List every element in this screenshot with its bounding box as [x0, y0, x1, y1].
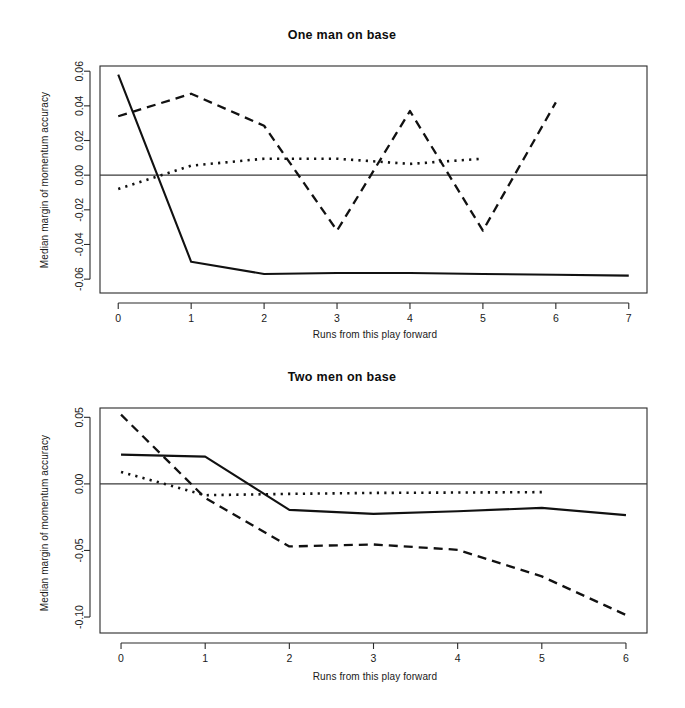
- y-tick-label-0-3: 0.00: [73, 165, 85, 186]
- y-tick-label-0-1: 0.04: [73, 95, 85, 116]
- y-tick-label-0-0: 0.06: [73, 61, 85, 82]
- x-tick-label-1-0: 0: [118, 652, 124, 664]
- y-tick-label-1-1: 0.00: [73, 474, 85, 495]
- x-axis-title-bottom: Runs from this play forward: [313, 671, 437, 682]
- y-tick-label-1-2: -0.05: [73, 538, 85, 562]
- y-tick-label-0-5: -0.04: [73, 232, 85, 256]
- series-2-dotted: [118, 159, 483, 189]
- chart-svg-top: One man on base Median margin of momentu…: [0, 0, 685, 360]
- plot-area-bottom: 0.050.00-0.05-0.100123456: [73, 407, 647, 664]
- chart-title-bottom: Two men on base: [288, 370, 396, 384]
- y-tick-label-1-0: 0.05: [73, 407, 85, 428]
- x-tick-label-0-7: 7: [626, 312, 632, 324]
- y-axis-title-bottom: Median margin of momentum accuracy: [39, 435, 50, 611]
- x-tick-label-1-4: 4: [455, 652, 461, 664]
- y-tick-label-0-6: -0.06: [73, 267, 85, 291]
- x-tick-label-0-1: 1: [188, 312, 194, 324]
- y-tick-label-1-3: -0.10: [73, 605, 85, 629]
- x-tick-label-1-6: 6: [623, 652, 629, 664]
- plot-area-top: 0.060.040.020.00-0.02-0.04-0.0601234567: [73, 61, 647, 324]
- x-tick-label-0-4: 4: [407, 312, 413, 324]
- series-1-dashed: [118, 94, 556, 231]
- x-tick-label-1-1: 1: [202, 652, 208, 664]
- chart-panel-one-man-on-base: One man on base Median margin of momentu…: [0, 0, 685, 360]
- x-tick-label-0-3: 3: [334, 312, 340, 324]
- series-0-solid: [121, 455, 626, 516]
- x-tick-label-0-0: 0: [115, 312, 121, 324]
- x-tick-label-1-2: 2: [286, 652, 292, 664]
- chart-panel-two-men-on-base: Two men on base Median margin of momentu…: [0, 348, 685, 708]
- y-tick-label-0-2: 0.02: [73, 130, 85, 151]
- x-axis-title-top: Runs from this play forward: [313, 329, 437, 340]
- y-tick-label-0-4: -0.02: [73, 198, 85, 222]
- x-tick-label-0-5: 5: [480, 312, 486, 324]
- x-tick-label-0-6: 6: [553, 312, 559, 324]
- y-axis-title-top: Median margin of momentum accuracy: [39, 92, 50, 268]
- chart-svg-bottom: Two men on base Median margin of momentu…: [0, 348, 685, 708]
- chart-title-top: One man on base: [288, 28, 397, 42]
- x-tick-label-1-3: 3: [371, 652, 377, 664]
- x-tick-label-0-2: 2: [261, 312, 267, 324]
- x-tick-label-1-5: 5: [539, 652, 545, 664]
